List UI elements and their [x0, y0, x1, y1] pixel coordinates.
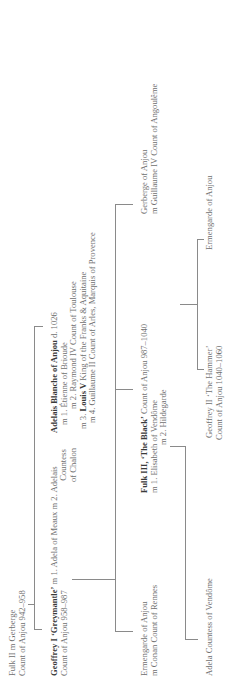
adela-vendome-line1: Adela Countess of Vendôme — [205, 578, 215, 676]
connector-adelais-tick — [34, 326, 43, 327]
connector-geoffrey-ii-tick — [197, 369, 204, 370]
geoffrey-i-marriages: m 1. Adela of Meaux m 2. Adelais — [49, 466, 59, 586]
node-ermengarde-conan: Ermengarde of Anjou m Conan Count of Ren… — [140, 585, 159, 676]
connector-geoffrey-i-tick — [34, 629, 42, 630]
adelais-m3-prefix: m 3. — [78, 412, 88, 429]
node-fulk-ii: Fulk II m Gerberge Count of Anjou 942–95… — [8, 590, 27, 676]
connector-gen4b-bar — [197, 239, 198, 370]
node-fulk-iii: Fulk III, ‘The Black’ Count of Anjou 987… — [140, 324, 169, 493]
connector-ermengarde-ii-tick — [197, 239, 204, 240]
geoffrey-ii-title: Count of Anjou 1040–1060 — [215, 346, 225, 441]
node-geoffrey-i: Geoffrey I ‘Greymantle’ m 1. Adela of Me… — [50, 466, 69, 676]
node-adelais-chalon: Countess of Chalon — [59, 445, 78, 485]
ermengarde-conan-line2: m Conan Count of Rennes — [150, 585, 160, 676]
fulk-iii-name: Fulk III, ‘The Black’ — [139, 416, 149, 493]
connector-fulk-iii-m1-drop — [170, 446, 185, 447]
connector-ermengarde-conan-tick — [115, 631, 133, 632]
ermengarde-ii-line1: Ermengarde of Anjou — [205, 176, 215, 250]
connector-fulk-iii-tick — [115, 389, 133, 390]
fulk-iii-m2: m 2. Hildegarde — [159, 324, 169, 493]
node-gerberge: Gerberge of Anjou m Guillaume IV Count o… — [140, 84, 159, 214]
geoffrey-i-name: Geoffrey I ‘Greymantle’ — [49, 587, 59, 676]
fulk-ii-title: Count of Anjou 942–958 — [18, 590, 28, 676]
node-ermengarde-ii: Ermengarde of Anjou — [205, 176, 215, 250]
connector-gen2-bar — [34, 326, 35, 630]
connector-fulk-iii-m2-drop — [180, 304, 197, 305]
gerberge-line2: m Guillaume IV Count of Angoulême — [150, 84, 160, 214]
adelais-blanche-death: d. 1026 — [49, 312, 59, 340]
geoffrey-i-title: Count of Anjou 958–987 — [60, 466, 70, 676]
family-tree-diagram: Fulk II m Gerberge Count of Anjou 942–95… — [0, 0, 244, 685]
adelais-m3-suffix: King of the Franks & Aquitaine — [78, 272, 88, 383]
connector-gerberge-tick — [115, 204, 133, 205]
node-adelais-blanche: Adelais Blanche of Anjou d. 1026 m 1. Ét… — [50, 232, 98, 433]
connector-geoffrey-i-drop — [72, 579, 115, 580]
fulk-iii-title: Count of Anjou 987–1040 — [139, 324, 149, 416]
adelais-m4: m 4. Guillaume II Count of Arles, Marqui… — [88, 232, 98, 433]
node-geoffrey-ii: Geoffrey II ‘The Hammer’ Count of Anjou … — [205, 346, 224, 441]
adelais-chalon-line3: of Chalon — [69, 445, 79, 485]
connector-gen4a-bar — [185, 446, 186, 640]
connector-gen3-bar — [115, 204, 116, 632]
node-adela-vendome: Adela Countess of Vendôme — [205, 578, 215, 676]
adelais-blanche-name: Adelais Blanche of Anjou — [49, 340, 59, 433]
connector-adela-tick — [185, 639, 198, 640]
adelais-m3-name: Louis V — [78, 383, 88, 412]
